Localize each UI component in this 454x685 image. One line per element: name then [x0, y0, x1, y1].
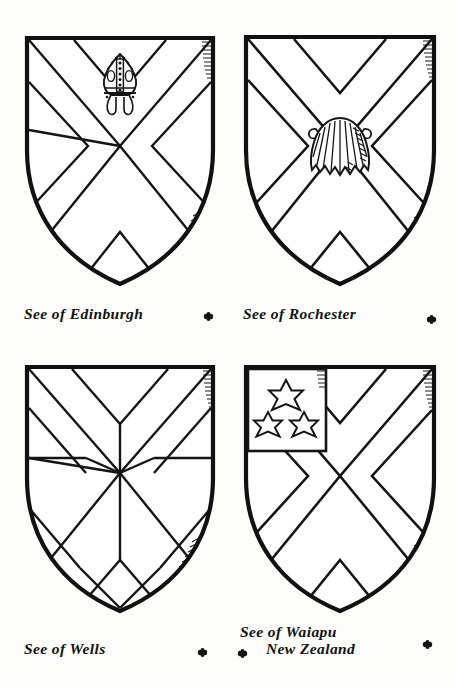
caption-edinburgh: See of Edinburgh — [24, 306, 143, 322]
shield-rochester — [238, 30, 443, 292]
shield-waiapu — [238, 360, 443, 618]
shield-wells-drawing — [20, 360, 220, 618]
shield-rochester-drawing — [238, 30, 443, 292]
shield-waiapu-drawing — [238, 360, 443, 618]
caption-waiapu-line1: See of Waiapu — [240, 623, 337, 640]
shield-wells — [20, 360, 220, 618]
quatrefoil-separator-1 — [203, 311, 214, 322]
shield-edinburgh-drawing — [20, 30, 220, 292]
shield-edinburgh — [20, 30, 220, 292]
caption-wells: See of Wells — [24, 641, 106, 657]
quatrefoil-separator-2 — [426, 314, 437, 325]
caption-rochester: See of Rochester — [243, 306, 356, 322]
quatrefoil-separator-3 — [197, 647, 208, 658]
caption-waiapu-line2: New Zealand — [240, 641, 355, 657]
quatrefoil-separator-5 — [422, 639, 433, 650]
heraldic-plate: See of Edinburgh See of Rochester — [0, 0, 454, 685]
caption-waiapu: See of Waiapu New Zealand — [240, 624, 355, 657]
